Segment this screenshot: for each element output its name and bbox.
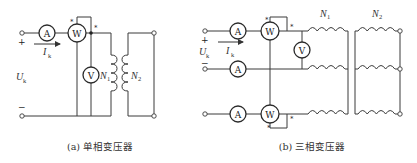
input-terminal-c	[203, 112, 207, 116]
input-terminal-top	[20, 31, 24, 35]
three-phase-circuit: A A A W W V * * * * + − I k U k N 1 N 2 …	[199, 8, 402, 152]
voltmeter-label: V	[298, 46, 306, 56]
wattmeter-label: W	[265, 27, 275, 37]
output-terminal-top	[152, 31, 156, 35]
primary-coil-a	[308, 28, 345, 32]
secondary-coil-a	[358, 28, 395, 32]
current-subscript: k	[48, 52, 52, 59]
caption-b: (b) 三相变压器	[279, 141, 346, 152]
transformer-short-circuit-test-diagram: A W V * * + − I k U k N 1 N 2 (a) 单相变压器	[0, 0, 417, 163]
polarity-mark: *	[267, 124, 271, 132]
secondary-coil-b	[358, 66, 395, 70]
current-subscript: k	[231, 51, 235, 58]
primary-coil-b	[308, 66, 345, 70]
current-label: I	[42, 46, 47, 57]
ammeter-label: A	[234, 110, 242, 120]
output-terminal-b	[398, 67, 402, 71]
ammeter-label: A	[234, 65, 242, 75]
polarity-mark: *	[290, 115, 294, 123]
input-terminal-a	[203, 29, 207, 33]
plus-sign: +	[201, 35, 209, 45]
plus-sign: +	[18, 37, 26, 47]
secondary-subscript: 2	[138, 75, 141, 82]
ammeter-label: A	[234, 27, 242, 37]
wattmeter-label: W	[72, 29, 82, 39]
caption-a: (a) 单相变压器	[67, 141, 133, 152]
primary-subscript: 1	[327, 13, 330, 20]
primary-subscript: 1	[107, 75, 110, 82]
minus-sign: −	[201, 58, 209, 68]
voltmeter-label: V	[87, 71, 95, 81]
polarity-mark: *	[70, 18, 74, 26]
output-terminal-bottom	[152, 114, 156, 118]
single-phase-circuit: A W V * * + − I k U k N 1 N 2 (a) 单相变压器	[16, 17, 156, 152]
wattmeter-label: W	[265, 110, 275, 120]
minus-sign: −	[18, 102, 26, 112]
polarity-mark: *	[94, 24, 98, 32]
input-terminal-bottom	[20, 114, 24, 118]
voltage-subscript: k	[206, 52, 210, 59]
ammeter-label: A	[43, 29, 51, 39]
secondary-subscript: 2	[379, 13, 382, 20]
current-label: I	[225, 45, 230, 56]
voltage-subscript: k	[23, 77, 27, 84]
junction-dot	[89, 31, 93, 35]
output-terminal-a	[398, 29, 402, 33]
polarity-mark: *	[265, 16, 269, 24]
secondary-coil-c	[358, 111, 395, 115]
polarity-mark: *	[290, 23, 294, 31]
output-terminal-c	[398, 112, 402, 116]
primary-coil-c	[308, 111, 345, 115]
